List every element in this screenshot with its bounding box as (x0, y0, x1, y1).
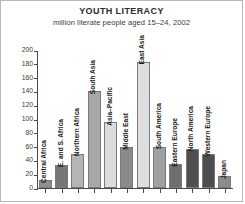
y-axis-tick (34, 147, 38, 148)
bar (104, 122, 117, 188)
y-axis-tick (34, 175, 38, 176)
bar-category-label: Western Europe (205, 106, 212, 156)
chart-title: YOUTH LITERACY (1, 6, 242, 16)
bar (186, 149, 199, 188)
bar-category-label: Central Africa (41, 140, 48, 183)
plot-area: Central AfricaE. and S. AfricaNorthern A… (37, 51, 233, 189)
y-axis-labels: 020406080100120140160180200 (5, 51, 33, 189)
x-axis-tick (192, 189, 193, 193)
y-axis-tick (34, 51, 38, 52)
y-axis-tick-label: 180 (7, 61, 33, 68)
bar (55, 165, 68, 188)
x-axis-tick (127, 189, 128, 193)
bar (71, 154, 84, 189)
bar (169, 164, 182, 188)
y-axis-tick (34, 64, 38, 65)
bar-category-label: East Asia (139, 35, 146, 64)
y-axis-tick (34, 120, 38, 121)
x-axis-tick (209, 189, 210, 193)
x-axis-tick (62, 189, 63, 193)
bar (137, 62, 150, 188)
bar (153, 147, 166, 188)
bar (120, 147, 133, 188)
x-axis-tick (143, 189, 144, 193)
bar-category-label: South Asia (90, 60, 97, 94)
x-axis-tick (78, 189, 79, 193)
bar-category-label: South America (156, 103, 163, 149)
x-axis-tick (176, 189, 177, 193)
y-axis-tick-label: 120 (7, 102, 33, 109)
bar-category-label: Middle East (123, 113, 130, 150)
x-axis-tick (45, 189, 46, 193)
y-axis-tick (34, 189, 38, 190)
bar-category-label: Eastern Europe (172, 118, 179, 167)
y-axis-tick-label: 100 (7, 116, 33, 123)
y-axis-tick (34, 106, 38, 107)
y-axis-tick-label: 60 (7, 144, 33, 151)
chart-subtitle: million literate people aged 15–24, 2002 (1, 18, 242, 27)
x-axis-tick (111, 189, 112, 193)
bar-category-label: Japan (221, 160, 228, 179)
chart-container: YOUTH LITERACY million literate people a… (0, 0, 243, 202)
bar (202, 154, 215, 189)
y-axis-tick-label: 80 (7, 130, 33, 137)
y-axis-tick (34, 78, 38, 79)
x-axis-line (37, 188, 233, 189)
y-axis-tick (34, 92, 38, 93)
y-axis-tick-label: 20 (7, 171, 33, 178)
bar-category-label: North America (188, 106, 195, 151)
bar-category-label: E. and S. Africa (58, 119, 65, 167)
x-axis-tick (225, 189, 226, 193)
y-axis-tick-label: 40 (7, 157, 33, 164)
y-axis-tick-label: 140 (7, 88, 33, 95)
y-axis-tick-label: 0 (7, 185, 33, 192)
bar-category-label: Asia–Pacific (107, 87, 114, 126)
bar-category-label: Northern Africa (74, 108, 81, 156)
x-axis-tick (160, 189, 161, 193)
y-axis-tick (34, 133, 38, 134)
bar (88, 91, 101, 188)
y-axis-tick-label: 160 (7, 75, 33, 82)
y-axis-tick-label: 200 (7, 47, 33, 54)
y-axis-tick (34, 161, 38, 162)
x-axis-tick (94, 189, 95, 193)
